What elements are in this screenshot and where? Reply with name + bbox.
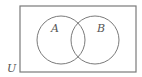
set-b-circle [71,16,119,64]
set-b-label: B [96,22,105,35]
set-a-label: A [50,22,59,35]
venn-diagram: A B U [0,0,142,77]
universe-label: U [7,62,17,75]
